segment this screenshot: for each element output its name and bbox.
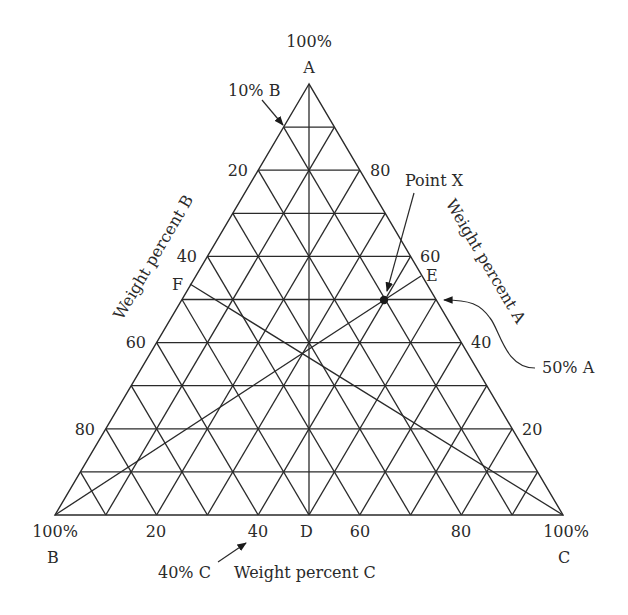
- tick-c-40: 40: [248, 522, 268, 541]
- tick-b-80: 80: [75, 420, 95, 439]
- grid-line: [512, 472, 537, 515]
- grid-line: [207, 213, 385, 515]
- tick-c-20: 20: [146, 522, 166, 541]
- annotation-point-x: Point X: [405, 171, 464, 190]
- grid-line: [106, 127, 335, 515]
- apex-name-label: A: [302, 58, 315, 77]
- annotation-50-a: 50% A: [542, 358, 595, 377]
- tick-b-40: 40: [177, 247, 197, 266]
- tick-b-60: 60: [126, 333, 146, 352]
- grid-line: [233, 213, 411, 515]
- point-f-label: F: [172, 275, 183, 294]
- annotation-40-c: 40% C: [158, 563, 211, 582]
- grid-line: [284, 127, 513, 515]
- arrow-10b-icon: [262, 100, 283, 125]
- tick-a-80: 80: [370, 161, 390, 180]
- tick-a-40: 40: [471, 333, 491, 352]
- ternary-diagram: 100% A 100% B 100% C 20 40 60 80 80 60 4…: [0, 0, 628, 615]
- line-c-to-f: [190, 284, 563, 515]
- apex-pct-label: 100%: [286, 32, 332, 51]
- grid-line: [309, 300, 436, 516]
- tick-b-20: 20: [228, 161, 248, 180]
- grid-line: [411, 386, 487, 515]
- tick-a-20: 20: [522, 420, 542, 439]
- vertex-c-name-label: C: [558, 548, 570, 567]
- arrow-40c-icon: [218, 543, 246, 562]
- grid-line: [80, 472, 105, 515]
- vertex-c-pct-label: 100%: [543, 522, 589, 541]
- tick-c-60: 60: [350, 522, 370, 541]
- grid-line: [131, 386, 207, 515]
- arrow-point-x-icon: [387, 193, 414, 291]
- point-e-label: E: [426, 266, 438, 285]
- vertex-b-pct-label: 100%: [32, 522, 78, 541]
- vertex-b-name-label: B: [47, 548, 59, 567]
- axis-title-a: Weight percent A: [442, 196, 530, 327]
- tick-c-80: 80: [451, 522, 471, 541]
- grid-line: [182, 300, 309, 516]
- annotation-10-b: 10% B: [228, 81, 280, 100]
- tick-a-60: 60: [420, 247, 440, 266]
- point-d-label: D: [300, 522, 313, 541]
- axis-title-c: Weight percent C: [234, 563, 376, 582]
- point-x-marker: [380, 296, 388, 304]
